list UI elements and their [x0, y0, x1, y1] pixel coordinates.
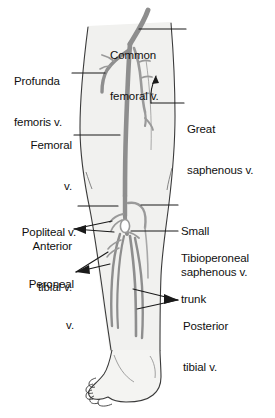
great-saphenous-vein-label-line-2: saphenous v. — [187, 164, 273, 178]
leader-peroneal-v-arrowhead — [76, 265, 90, 274]
posterior-tibial-vein-label: Posterior tibial v. — [183, 293, 269, 401]
great-saphenous-vein-label-line-1: Great — [187, 123, 273, 137]
foot-fill — [89, 350, 161, 402]
tibioperoneal-trunk-label-line-1: Tibioperoneal — [181, 252, 275, 266]
great-saphenous-vein-label: Great saphenous v. — [187, 96, 273, 204]
profunda-femoris-vein-label-line-1: Profunda — [14, 75, 74, 89]
foot-silhouette — [86, 350, 161, 406]
figure-container: Common femoral v. Profunda femoris v. Gr… — [0, 0, 275, 418]
posterior-tibial-vein-label-line-2: tibial v. — [183, 361, 269, 375]
posterior-tibial-vein-label-line-1: Posterior — [183, 320, 269, 334]
femoral-vein-label-line-1: Femoral — [12, 139, 72, 153]
peroneal-vein-label: Peroneal v. — [6, 251, 74, 359]
toe-5 — [98, 399, 112, 406]
common-femoral-vein-label: Common femoral v. — [110, 22, 186, 130]
common-femoral-vein-label-line-1: Common — [110, 49, 186, 63]
peroneal-vein-label-line-2: v. — [6, 319, 74, 333]
common-femoral-vein-label-line-2: femoral v. — [110, 90, 186, 104]
peroneal-vein-label-line-1: Peroneal — [6, 278, 74, 292]
interosseous-window — [120, 220, 129, 233]
femoral-vein-label-line-2: v. — [12, 180, 72, 194]
